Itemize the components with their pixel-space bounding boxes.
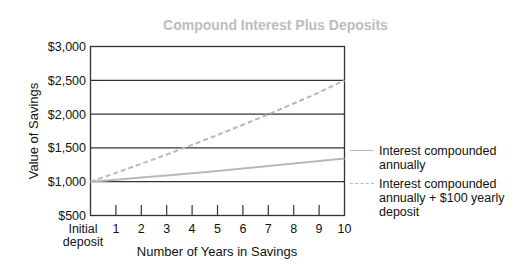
ytick-label: $1,000 [48, 175, 86, 189]
legend-label: deposit [379, 205, 521, 219]
xtick-label: 4 [189, 222, 196, 236]
legend-label: Interest compounded [379, 144, 521, 158]
ytick-label: $2,000 [48, 108, 86, 122]
xtick-label: 9 [316, 222, 323, 236]
plot-frame [91, 47, 345, 216]
xtick-label: 6 [239, 222, 246, 236]
ytick-label: $1,500 [48, 141, 86, 155]
series-line-compound-plus-deposit [91, 80, 345, 181]
xtick-label: 3 [163, 222, 170, 236]
y-axis-title: Value of Savings [26, 82, 41, 179]
xtick-label: 5 [214, 222, 221, 236]
ytick-label: $2,500 [48, 74, 86, 88]
xtick-label: 10 [338, 222, 352, 236]
ytick-label: $3,000 [48, 40, 86, 54]
xtick-label-deposit: deposit [63, 235, 104, 249]
legend-label: annually [379, 158, 521, 172]
ytick-label: $500 [58, 209, 86, 223]
x-tick-marks [116, 205, 319, 216]
legend-dashed-line-icon [350, 183, 374, 184]
xtick-label: 2 [138, 222, 145, 236]
xtick-label: 7 [265, 222, 272, 236]
legend-solid-line-icon [350, 150, 374, 151]
legend-label: annually + $100 yearly [379, 191, 521, 205]
y-tick-labels: $3,000 $2,500 $2,000 $1,500 $1,000 $500 [48, 40, 86, 223]
xtick-label: 8 [290, 222, 297, 236]
x-axis-title: Number of Years in Savings [137, 244, 298, 259]
gridlines [91, 80, 345, 181]
legend-label: Interest compounded [379, 177, 521, 191]
series-line-compound [91, 158, 345, 181]
xtick-label: 1 [112, 222, 119, 236]
chart-canvas: $3,000 $2,500 $2,000 $1,500 $1,000 $500 … [0, 0, 521, 271]
xtick-label-initial: Initial [68, 222, 97, 236]
